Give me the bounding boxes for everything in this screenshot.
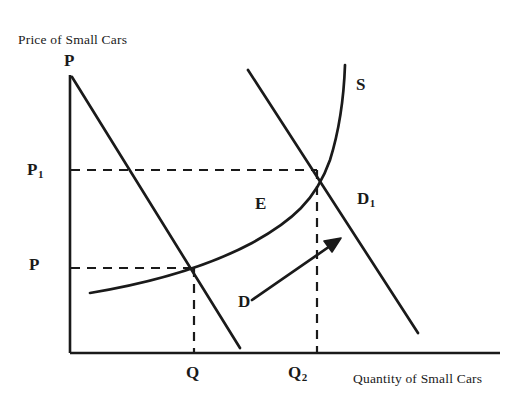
price-tick-p1: P1	[27, 161, 43, 178]
price-tick-p1-subscript: 1	[38, 168, 44, 180]
y-axis-cap-label: P	[64, 52, 74, 69]
supply-demand-diagram: Price of Small Cars Quantity of Small Ca…	[0, 0, 520, 404]
x-axis-title: Quantity of Small Cars	[353, 372, 482, 386]
price-tick-p1-text: P	[27, 160, 37, 179]
quantity-tick-q: Q	[186, 364, 199, 381]
supply-curve-label: S	[356, 76, 365, 93]
price-tick-p: P	[29, 256, 39, 273]
demand-shifted-label-text: D	[357, 189, 369, 208]
demand-shifted-label-subscript: 1	[370, 197, 376, 209]
equilibrium-label-e: E	[255, 195, 266, 212]
demand-shifted-label: D1	[357, 190, 375, 207]
quantity-tick-q2: Q2	[288, 364, 307, 381]
quantity-tick-q2-text: Q	[288, 363, 301, 382]
demand-curve-shifted	[248, 70, 418, 333]
demand-initial-label: D	[238, 293, 250, 310]
y-axis-title: Price of Small Cars	[18, 33, 127, 47]
quantity-tick-q2-subscript: 2	[302, 371, 308, 383]
demand-curve-initial	[72, 77, 240, 348]
supply-curve	[90, 65, 345, 293]
demand-shift-arrow	[252, 238, 341, 300]
